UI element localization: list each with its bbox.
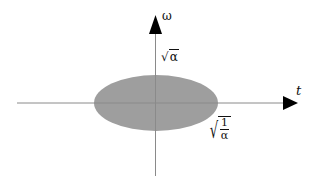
radical-sign: √ <box>161 50 169 64</box>
radical-sign: √ <box>210 120 218 142</box>
diagram-canvas <box>0 0 319 185</box>
sqrt-inverse-alpha-label: √ 1 α <box>207 116 231 142</box>
radicand: α <box>169 49 179 64</box>
sqrt-alpha-label: √α <box>161 51 179 63</box>
t-axis-label: t <box>296 84 301 97</box>
omega-axis-label: ω <box>162 10 172 22</box>
denominator: α <box>221 130 228 142</box>
t-axis-arrowhead-icon <box>283 96 298 110</box>
omega-axis-arrowhead-icon <box>149 15 162 34</box>
fraction: 1 α <box>218 116 231 142</box>
